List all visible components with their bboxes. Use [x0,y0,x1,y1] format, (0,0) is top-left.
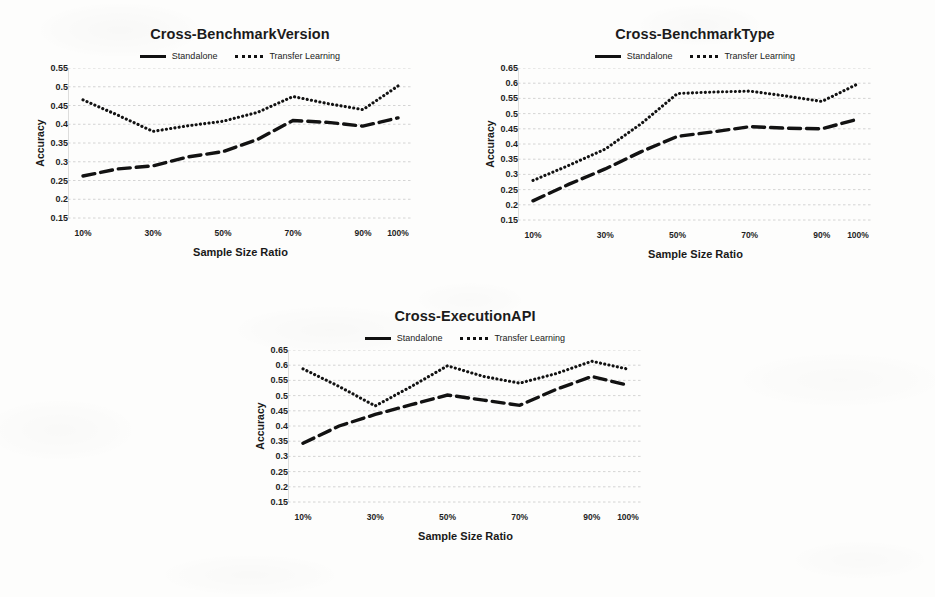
legend-swatch-dotted-icon [690,55,718,58]
x-axis-tick-label: 100% [617,512,639,522]
plot-canvas [518,68,873,222]
y-axis-tick-label: 0.3 [55,157,68,167]
x-axis-tick-label: 50% [439,512,456,522]
series-line-standalone [303,376,628,443]
y-axis-tick-label: 0.65 [270,345,288,355]
chart-legend: Standalone Transfer Learning [240,333,690,343]
y-axis-tick-label: 0.35 [270,436,288,446]
y-axis-tick-label: 0.2 [275,482,288,492]
y-axis-tick-label: 0.5 [505,109,518,119]
x-axis-tick-label: 10% [74,228,91,238]
series-line-standalone [83,118,398,176]
legend-swatch-dotted-icon [235,55,263,58]
x-axis-tick-label: 70% [284,228,301,238]
y-axis-tick-label: 0.2 [55,194,68,204]
y-axis-tick-label: 0.6 [505,78,518,88]
legend-label-transfer-learning: Transfer Learning [494,333,565,343]
x-axis-tick-label: 90% [354,228,371,238]
plot-canvas [288,350,643,504]
legend-swatch-dotted-icon [460,337,488,340]
y-axis-tick-label: 0.3 [505,169,518,179]
x-axis-tick-label: 70% [511,512,528,522]
chart-title: Cross-ExecutionAPI [240,308,690,324]
x-axis-tick-label: 50% [669,230,686,240]
y-axis-tick-label: 0.45 [500,124,518,134]
y-axis-tick-label: 0.3 [275,451,288,461]
plot-area: Accuracy 0.150.20.250.30.350.40.450.50.5… [470,68,920,268]
x-axis-tick-label: 30% [144,228,161,238]
y-axis-tick-label: 0.45 [50,101,68,111]
legend-item-transfer-learning: Transfer Learning [460,333,565,343]
y-axis-tick-label: 0.4 [505,139,518,149]
y-axis-label: Accuracy [34,119,46,166]
x-axis-tick-label: 50% [214,228,231,238]
y-axis-tick-label: 0.55 [50,63,68,73]
x-axis-tick-label: 100% [847,230,869,240]
legend-swatch-dashed-icon [595,55,621,58]
y-axis-tick-label: 0.15 [50,213,68,223]
x-axis-tick-label: 70% [741,230,758,240]
chart-title: Cross-BenchmarkVersion [20,26,460,42]
x-axis-tick-label: 30% [597,230,614,240]
x-axis-label: Sample Size Ratio [68,246,413,258]
y-axis-tick-label: 0.25 [500,185,518,195]
y-axis-tick-label: 0.35 [50,138,68,148]
gridlines [68,68,413,218]
legend-swatch-dashed-icon [365,337,391,340]
gridlines [518,68,873,220]
y-axis-tick-label: 0.65 [500,63,518,73]
legend-item-transfer-learning: Transfer Learning [690,51,795,61]
chart-panel-cross-benchmarktype: Cross-BenchmarkType Standalone Transfer … [470,26,920,268]
y-axis-tick-label: 0.15 [270,497,288,507]
x-axis-tick-label: 100% [387,228,409,238]
chart-panel-cross-benchmarkversion: Cross-BenchmarkVersion Standalone Transf… [20,26,460,268]
x-axis-tick-row: 10%30%50%70%90%100% [68,228,413,242]
legend-item-standalone: Standalone [595,51,673,61]
y-axis-tick-label: 0.2 [505,200,518,210]
x-axis-tick-label: 10% [294,512,311,522]
y-axis-tick-label: 0.45 [270,406,288,416]
legend-label-standalone: Standalone [397,333,443,343]
y-axis-tick-label: 0.55 [500,93,518,103]
y-axis-tick-label: 0.6 [275,360,288,370]
legend-item-standalone: Standalone [140,51,218,61]
y-axis-label: Accuracy [254,402,266,449]
plot-canvas [68,68,413,220]
chart-title: Cross-BenchmarkType [470,26,920,42]
x-axis-tick-label: 90% [813,230,830,240]
chart-panel-cross-executionapi: Cross-ExecutionAPI Standalone Transfer L… [240,308,690,550]
y-axis-tick-label: 0.4 [275,421,288,431]
legend-label-standalone: Standalone [627,51,673,61]
y-axis-tick-label: 0.5 [55,82,68,92]
x-axis-label: Sample Size Ratio [518,248,873,260]
chart-legend: Standalone Transfer Learning [20,51,460,61]
y-axis-label: Accuracy [484,120,496,167]
y-axis-tick-label: 0.25 [270,467,288,477]
x-axis-tick-label: 10% [524,230,541,240]
legend-item-standalone: Standalone [365,333,443,343]
legend-label-standalone: Standalone [172,51,218,61]
legend-label-transfer-learning: Transfer Learning [724,51,795,61]
y-axis-tick-label: 0.5 [275,391,288,401]
x-axis-tick-label: 90% [583,512,600,522]
plot-area: Accuracy 0.150.20.250.30.350.40.450.50.5… [240,350,690,550]
legend-item-transfer-learning: Transfer Learning [235,51,340,61]
x-axis-tick-row: 10%30%50%70%90%100% [288,512,643,526]
y-axis-tick-label: 0.35 [500,154,518,164]
y-axis-tick-label: 0.15 [500,215,518,225]
plot-area: Accuracy 0.150.20.250.30.350.40.450.50.5… [20,68,460,268]
legend-swatch-dashed-icon [140,55,166,58]
legend-label-transfer-learning: Transfer Learning [269,51,340,61]
x-axis-label: Sample Size Ratio [288,530,643,542]
y-axis-tick-label: 0.25 [50,176,68,186]
y-axis-tick-label: 0.55 [270,375,288,385]
chart-legend: Standalone Transfer Learning [470,51,920,61]
x-axis-tick-row: 10%30%50%70%90%100% [518,230,873,244]
y-axis-tick-label: 0.4 [55,119,68,129]
x-axis-tick-label: 30% [367,512,384,522]
